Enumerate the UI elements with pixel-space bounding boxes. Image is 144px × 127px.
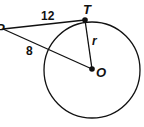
segment-to-radius (85, 20, 92, 69)
label-12: 12 (41, 9, 55, 23)
point-o (89, 66, 95, 72)
label-p: P (0, 21, 5, 36)
point-t (82, 17, 88, 23)
segment-po (3, 29, 92, 69)
label-8: 8 (26, 44, 33, 58)
label-r: r (92, 34, 98, 48)
label-o: O (96, 65, 106, 80)
label-t: T (83, 2, 92, 17)
geometry-diagram: P T O 12 8 r (0, 0, 144, 127)
